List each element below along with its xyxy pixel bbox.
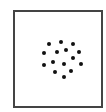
dot-7 bbox=[77, 50, 81, 54]
dot-12 bbox=[79, 62, 83, 66]
dot-2 bbox=[59, 40, 63, 44]
dot-13 bbox=[53, 70, 57, 74]
figure-canvas bbox=[0, 0, 106, 112]
dot-10 bbox=[51, 60, 55, 64]
dot-9 bbox=[42, 63, 46, 67]
dot-3 bbox=[71, 42, 75, 46]
dot-6 bbox=[64, 48, 68, 52]
dot-11 bbox=[62, 62, 66, 66]
dot-5 bbox=[55, 50, 59, 54]
dot-8 bbox=[71, 56, 75, 60]
dot-15 bbox=[62, 75, 66, 79]
dot-14 bbox=[69, 69, 73, 73]
square-frame bbox=[13, 10, 103, 108]
dot-4 bbox=[42, 51, 46, 55]
dot-1 bbox=[47, 42, 51, 46]
